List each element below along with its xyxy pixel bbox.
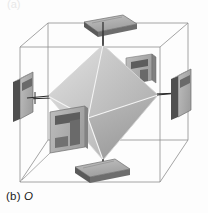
figure-caption: (b) O xyxy=(6,190,33,202)
ligand-top xyxy=(84,15,137,37)
ligand-back-right-edge xyxy=(152,54,156,83)
cube-edge-connector-br xyxy=(160,140,188,182)
figure-container: (a) xyxy=(0,0,208,213)
caption-prefix: (b) xyxy=(6,190,21,202)
ligand-front-left xyxy=(50,106,88,153)
caption-symbol: O xyxy=(24,190,33,202)
ligand-front-left-notch-vertical xyxy=(70,119,80,146)
ligand-left-dark-edge xyxy=(13,79,20,122)
cube-edge-connector-tl xyxy=(20,23,48,47)
cube-edge-connector-bl xyxy=(20,140,48,182)
octahedral-ligand-field-diagram xyxy=(0,0,208,213)
ligand-left xyxy=(13,72,33,122)
ligand-leader-line xyxy=(22,153,50,180)
ligand-right-dark-edge xyxy=(171,76,178,120)
ligand-front-left-notch-bottom xyxy=(55,136,68,148)
cube-edge-connector-tr xyxy=(160,23,188,47)
ligand-bottom xyxy=(75,159,130,183)
ligand-front-left-edge xyxy=(85,106,88,149)
